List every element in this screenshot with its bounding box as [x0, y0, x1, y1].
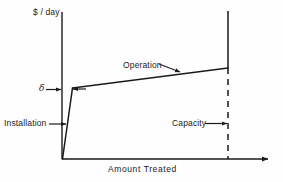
cost-curve-group — [63, 68, 229, 159]
operation-annotation-label: Operation — [123, 61, 162, 70]
annotation-arrows — [46, 64, 227, 124]
x-axis-label: Amount Treated — [108, 165, 177, 174]
y-axis-label: $ / day — [33, 8, 60, 17]
figure-container: $ / day Amount Treated Operation Install… — [0, 0, 283, 182]
installation-annotation-label: Installation — [4, 119, 46, 128]
capacity-annotation-label: Capacity — [172, 119, 206, 128]
operation-arrow — [159, 64, 180, 72]
operation-segment — [73, 68, 229, 88]
delta-symbol-label: δ — [39, 84, 45, 93]
